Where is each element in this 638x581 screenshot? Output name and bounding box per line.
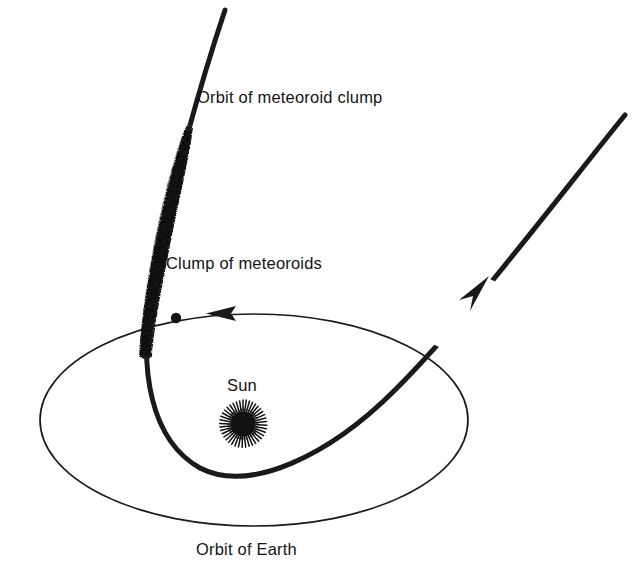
label-sun: Sun: [227, 377, 257, 394]
label-orbit-of-meteoroid-clump: Orbit of meteoroid clump: [197, 89, 382, 106]
label-orbit-of-earth: Orbit of Earth: [196, 541, 297, 558]
earth-dot: [171, 313, 181, 323]
label-clump-of-meteoroids: Clump of meteoroids: [166, 255, 322, 272]
